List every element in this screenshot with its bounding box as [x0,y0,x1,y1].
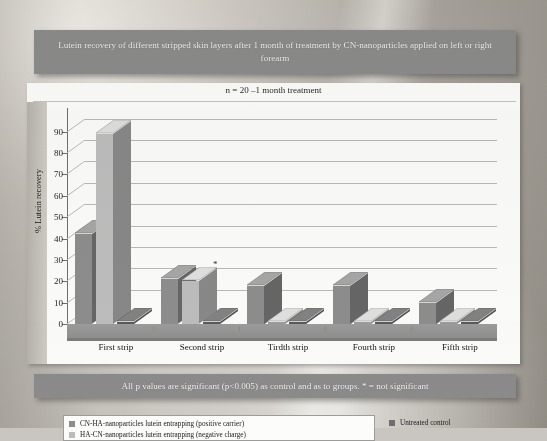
bar-face [203,322,220,324]
bar [203,309,220,324]
bar-face [96,134,113,324]
bar [354,309,371,324]
bar-face [182,281,199,324]
chart-subtitle: n = 20 –1 month treatment [27,85,520,95]
gridline [85,161,497,162]
subtitle-divider [33,101,516,102]
bar [117,309,134,324]
bar-face [117,322,134,324]
bar [182,268,199,324]
x-axis-label: First strip [99,342,134,352]
x-axis-label: Fourth strip [353,342,395,352]
gridline [85,268,497,269]
y-axis-tick-label: 0 [41,319,63,329]
gridline-depth-connector [67,140,85,153]
gridline-depth-connector [67,161,85,174]
chart-card: n = 20 –1 month treatment % Lutein recov… [27,83,520,364]
slide-footer-banner: All p values are significant (p<0.005) a… [34,374,516,398]
gridline [85,247,497,248]
bar-face [375,322,392,324]
bar [375,309,392,324]
y-axis-tick-label: 20 [41,276,63,286]
y-axis-tick-label: 70 [41,169,63,179]
x-axis-separator [411,326,412,331]
bar-face [268,322,285,324]
bar [161,266,178,324]
bar-face [247,286,264,324]
gridline [85,226,497,227]
gridline [85,183,497,184]
gridline [85,204,497,205]
bar-face [161,279,178,324]
legend-swatch-positive [69,421,75,427]
significance-asterisk: * [213,259,218,269]
x-axis-label: Fifth strip [442,342,478,352]
bar [289,309,306,324]
y-axis-tick-label: 90 [41,127,63,137]
plot-area [85,108,497,311]
chart-floor-slab [67,324,497,338]
bar-face [440,322,457,324]
y-axis-tick-label: 50 [41,212,63,222]
slide-title-banner: Lutein recovery of different stripped sk… [34,30,516,74]
legend-item-negative: HA-CN-nanoparticles lutein entrapping (n… [69,429,369,440]
bar-face [461,322,478,324]
bar-face [75,234,92,324]
x-axis-separator [153,326,154,331]
x-axis-label: Tirdth strip [268,342,308,352]
bar [333,273,350,324]
legend-label-control: Untreated control [400,419,451,427]
y-axis-tick-label: 40 [41,234,63,244]
legend-swatch-negative [69,432,75,438]
x-axis-separator [325,326,326,331]
chart-floor-edge [67,338,497,341]
bar [268,309,285,324]
x-axis-label: Second strip [180,342,225,352]
y-axis-tick-label: 10 [41,298,63,308]
bar [247,273,264,324]
bar [96,121,113,324]
legend: CN-HA-nanoparticles lutein entrapping (p… [63,415,375,441]
bar-face [419,303,436,324]
legend-item-positive: CN-HA-nanoparticles lutein entrapping (p… [69,418,369,429]
bar [419,290,436,324]
bar [461,309,478,324]
slide-title: Lutein recovery of different stripped sk… [48,39,502,65]
y-axis-tick-label: 30 [41,255,63,265]
gridline-depth-connector [67,204,85,217]
gridline-depth-connector [67,183,85,196]
bar-face [289,322,306,324]
bar [75,221,92,324]
gridline [85,140,497,141]
legend-item-control: Untreated control [389,419,451,427]
legend-swatch-control [389,420,395,426]
gridline-depth-connector [67,119,85,132]
legend-label-negative: HA-CN-nanoparticles lutein entrapping (n… [80,431,246,439]
bar [440,309,457,324]
slide-footer-text: All p values are significant (p<0.005) a… [121,381,428,391]
x-axis-separator [239,326,240,331]
bar-face [333,286,350,324]
gridline [85,119,497,120]
legend-label-positive: CN-HA-nanoparticles lutein entrapping (p… [80,420,244,428]
y-axis-tick-label: 60 [41,191,63,201]
bar-face [354,322,371,324]
y-axis-tick-label: 80 [41,148,63,158]
